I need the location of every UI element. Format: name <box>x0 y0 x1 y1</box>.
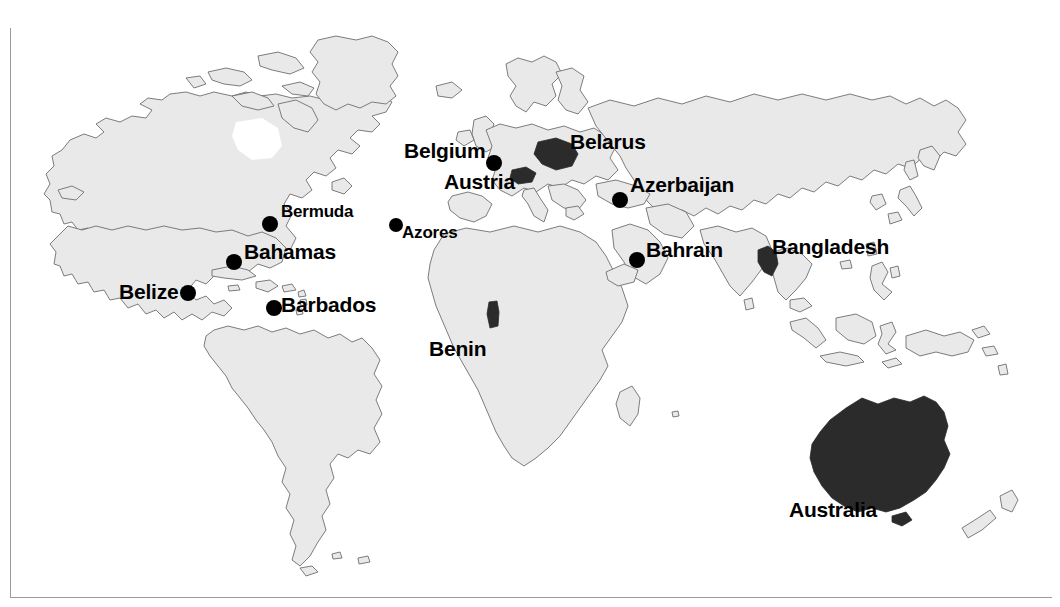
world-map-graphic <box>0 0 1060 607</box>
map-page: BelgiumBelarusAustriaAzerbaijanBermudaAz… <box>0 0 1060 607</box>
land-java <box>820 352 864 366</box>
land-newfoundland <box>332 178 352 194</box>
land-island-small-a <box>332 552 342 559</box>
land-sulawesi <box>878 322 896 354</box>
highlight-australia <box>810 396 950 512</box>
land-bismarck <box>972 326 990 338</box>
land-tierra-del-fuego <box>300 566 318 576</box>
marker-bahrain[interactable] <box>629 252 645 268</box>
land-arctic-islands-d <box>282 82 314 96</box>
land-borneo <box>836 314 876 344</box>
land-south-america <box>204 326 382 566</box>
land-finland-baltic <box>556 68 588 114</box>
map-label-bermuda: Bermuda <box>281 203 353 220</box>
map-label-belgium: Belgium <box>404 140 485 161</box>
land-jamaica <box>228 285 240 291</box>
land-arctic-islands-b <box>258 52 304 74</box>
land-italy <box>522 188 548 222</box>
land-philippines <box>870 262 892 300</box>
land-greenland <box>310 36 398 110</box>
land-island-small-b <box>672 411 679 417</box>
marker-azerbaijan[interactable] <box>612 192 628 208</box>
land-new-zealand-south <box>962 510 996 538</box>
marker-belize[interactable] <box>180 285 196 301</box>
map-label-barbados: Barbados <box>281 294 376 315</box>
land-madagascar <box>616 386 640 426</box>
highlight-tasmania <box>892 512 912 526</box>
land-iberia <box>448 192 492 222</box>
map-label-belize: Belize <box>119 281 179 302</box>
land-scandinavia <box>506 56 562 112</box>
land-philippines-b <box>890 266 900 278</box>
land-sri-lanka <box>744 298 754 310</box>
land-solomons <box>982 346 998 356</box>
map-label-bahamas: Bahamas <box>244 241 336 262</box>
land-falklands <box>358 556 370 564</box>
land-new-zealand-north <box>1000 490 1018 512</box>
land-balkans <box>548 184 586 210</box>
land-new-guinea <box>906 330 974 356</box>
map-label-azores: Azores <box>402 224 458 241</box>
marker-bermuda[interactable] <box>262 216 278 232</box>
land-puerto-rico <box>282 284 296 292</box>
marker-bahamas[interactable] <box>226 254 242 270</box>
land-arctic-islands-a <box>208 68 252 86</box>
land-malaysia <box>790 298 812 312</box>
marker-barbados[interactable] <box>266 300 282 316</box>
map-label-belarus: Belarus <box>570 131 646 152</box>
land-iceland <box>436 82 462 98</box>
land-japan <box>898 186 922 216</box>
marker-azores[interactable] <box>389 218 403 232</box>
land-japan-s <box>888 212 902 224</box>
land-greece <box>566 206 584 220</box>
map-label-azerbaijan: Azerbaijan <box>630 174 734 195</box>
land-sumatra <box>790 318 826 348</box>
map-label-bahrain: Bahrain <box>646 239 723 260</box>
land-timor <box>882 358 902 368</box>
land-vanuatu <box>998 364 1008 375</box>
map-label-bangladesh: Bangladesh <box>772 236 889 257</box>
land-arctic-islands-e <box>186 76 206 88</box>
land-hispaniola <box>256 280 278 292</box>
land-korea <box>870 194 886 210</box>
marker-belgium[interactable] <box>486 155 502 171</box>
highlight-benin <box>487 301 499 328</box>
map-label-benin: Benin <box>429 338 486 359</box>
land-hainan <box>840 260 852 269</box>
map-label-austria: Austria <box>444 171 515 192</box>
map-label-australia: Australia <box>789 499 877 520</box>
